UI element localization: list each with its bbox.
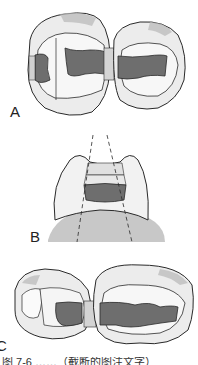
- figure-caption: 图 7-6 ……（截断的图注文字）: [2, 357, 198, 365]
- panel-c: C: [0, 255, 198, 355]
- panel-c-label: C: [0, 337, 7, 354]
- panel-a-label: A: [10, 103, 20, 120]
- panel-b: B: [0, 130, 198, 250]
- panel-a: A: [0, 0, 198, 125]
- panel-a-illustration: [0, 0, 198, 125]
- panel-c-illustration: [0, 255, 198, 355]
- panel-b-label: B: [30, 228, 40, 245]
